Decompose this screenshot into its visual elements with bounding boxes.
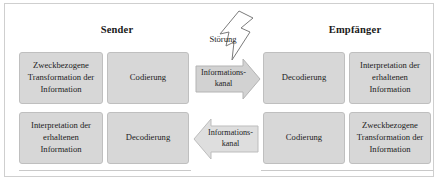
box-label: Decodierung xyxy=(282,72,326,84)
box-decodierung-receiver: Decodierung xyxy=(263,52,345,104)
channel-arrow-backward: Informations- kanal xyxy=(193,118,259,160)
box-codierung-receiver: Codierung xyxy=(263,112,345,164)
section-title-empfaenger: Empfänger xyxy=(295,24,415,35)
arrow-right-icon xyxy=(195,58,261,100)
noise-group: Störung xyxy=(201,8,263,64)
group-underline-sender xyxy=(19,170,191,171)
channel-arrow-forward: Informations- kanal xyxy=(195,58,261,100)
box-zweckbezogene-transformation-receiver: Zweckbezogene Transformation der Informa… xyxy=(349,112,431,164)
box-zweckbezogene-transformation-sender: Zweckbezogene Transformation der Informa… xyxy=(19,52,103,104)
group-underline-empfaenger xyxy=(261,170,433,171)
box-interpretation-sender: Interpretation der erhaltenen Informatio… xyxy=(19,112,103,164)
box-label: Decodierung xyxy=(126,132,170,144)
noise-label: Störung xyxy=(199,34,247,44)
box-interpretation-receiver: Interpretation der erhaltenen Informatio… xyxy=(349,52,431,104)
box-label: Interpretation der erhaltenen Informatio… xyxy=(23,120,99,156)
box-label: Zweckbezogene Transformation der Informa… xyxy=(353,120,427,156)
box-label: Codierung xyxy=(286,132,322,144)
box-label: Interpretation der erhaltenen Informatio… xyxy=(353,60,427,96)
diagram-frame: Sender Empfänger Störung Zweckbezogene T… xyxy=(4,3,434,177)
box-codierung-sender: Codierung xyxy=(107,52,189,104)
box-label: Zweckbezogene Transformation der Informa… xyxy=(23,60,99,96)
arrow-left-icon xyxy=(193,118,259,160)
box-label: Codierung xyxy=(130,72,166,84)
section-title-sender: Sender xyxy=(57,24,177,35)
box-decodierung-sender: Decodierung xyxy=(107,112,189,164)
